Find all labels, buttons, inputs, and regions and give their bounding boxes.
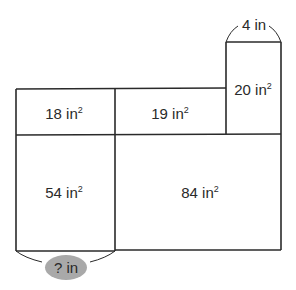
region-top-left: 18 in2 bbox=[45, 105, 83, 122]
region-bottom-right: 84 in2 bbox=[181, 184, 219, 201]
region-bottom-left: 54 in2 bbox=[45, 184, 83, 201]
top-width-label: 4 in bbox=[242, 16, 266, 33]
unknown-width-label: ? in bbox=[54, 259, 78, 276]
region-top-middle: 19 in2 bbox=[151, 105, 189, 122]
area-model-diagram bbox=[0, 0, 296, 290]
region-tall-right: 20 in2 bbox=[234, 81, 272, 98]
